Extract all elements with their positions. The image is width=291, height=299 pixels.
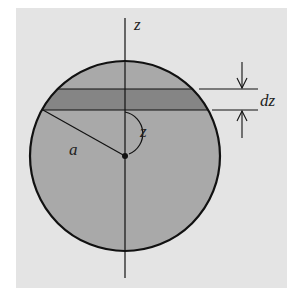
center-point: [122, 153, 128, 159]
sphere-diagram: z z a dz: [0, 0, 291, 299]
angle-label: z: [139, 122, 147, 141]
radius-label: a: [69, 140, 78, 159]
axis-label: z: [133, 15, 141, 34]
thickness-label: dz: [260, 91, 276, 110]
